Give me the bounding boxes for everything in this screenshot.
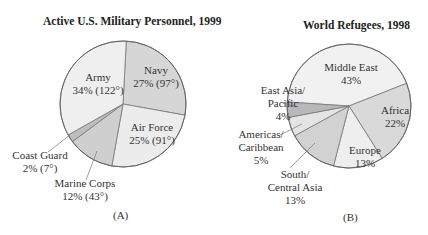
label-africa-value: 22% [370,117,420,130]
label-air-force: Air Force 25% (91°) [122,121,182,147]
pie-chart-a [60,41,186,167]
label-south-asia: South/ Central Asia 13% [260,168,330,207]
label-south-asia-name-line2: Central Asia [260,181,330,194]
label-east-asia: East Asia/ Pacific 4% [258,84,308,123]
label-europe-name: Europe [340,144,390,157]
label-americas-name-line1: Americas/ [236,128,286,141]
label-navy-value: 27% (97°) [126,77,186,90]
label-middle-east: Middle East 43% [318,61,384,87]
label-air-force-name: Air Force [122,121,182,134]
label-marine-corps-name: Marine Corps [50,177,120,190]
chart-b-title: World Refugees, 1998 [303,19,410,31]
label-africa: Africa 22% [370,104,420,130]
label-marine-corps: Marine Corps 12% (43°) [50,177,120,203]
label-army: Army 34% (122°) [68,71,128,97]
label-americas-value: 5% [236,154,286,167]
label-coast-guard-value: 2% (7°) [10,162,70,175]
label-air-force-value: 25% (91°) [122,134,182,147]
label-east-asia-name-line2: Pacific [258,97,308,110]
label-americas: Americas/ Caribbean 5% [236,128,286,167]
label-middle-east-value: 43% [318,74,384,87]
label-coast-guard: Coast Guard 2% (7°) [10,149,70,175]
label-east-asia-value: 4% [258,110,308,123]
label-americas-name-line2: Caribbean [236,141,286,154]
label-navy-name: Navy [126,64,186,77]
label-marine-corps-value: 12% (43°) [50,190,120,203]
label-south-asia-value: 13% [260,194,330,207]
label-middle-east-name: Middle East [318,61,384,74]
chart-a-caption: (A) [113,209,128,221]
label-army-value: 34% (122°) [68,84,128,97]
label-navy: Navy 27% (97°) [126,64,186,90]
label-coast-guard-name: Coast Guard [10,149,70,162]
chart-a-title: Active U.S. Military Personnel, 1999 [43,15,222,27]
label-army-name: Army [68,71,128,84]
label-europe-value: 13% [340,157,390,170]
label-south-asia-name-line1: South/ [260,168,330,181]
label-africa-name: Africa [370,104,420,117]
label-east-asia-name-line1: East Asia/ [258,84,308,97]
chart-b-caption: (B) [343,211,358,223]
label-europe: Europe 13% [340,144,390,170]
